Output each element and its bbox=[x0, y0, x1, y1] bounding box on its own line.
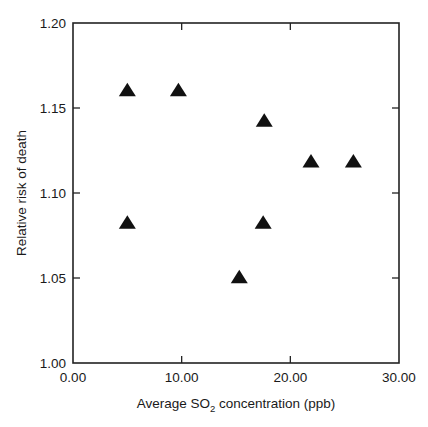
top-edge-artifact bbox=[0, 0, 428, 12]
y-tick-label: 1.05 bbox=[40, 271, 66, 286]
relative-risk-vs-so2-scatter: 0.0010.0020.0030.00 1.001.051.101.151.20… bbox=[0, 0, 428, 427]
x-tick-label: 30.00 bbox=[382, 370, 416, 385]
y-axis-tick-labels: 1.001.051.101.151.20 bbox=[40, 16, 66, 371]
data-point-marker bbox=[231, 270, 248, 284]
x-tick-label: 20.00 bbox=[273, 370, 307, 385]
plot-frame bbox=[73, 23, 399, 363]
scatter-plot-figure: 0.0010.0020.0030.00 1.001.051.101.151.20… bbox=[0, 0, 428, 427]
x-axis-ticks bbox=[182, 23, 291, 363]
data-point-marker bbox=[119, 215, 136, 229]
data-point-marker bbox=[170, 83, 187, 97]
data-point-marker bbox=[345, 154, 362, 168]
y-axis-ticks bbox=[73, 108, 399, 278]
y-tick-label: 1.15 bbox=[40, 101, 66, 116]
data-point-marker bbox=[119, 83, 136, 97]
data-point-marker bbox=[255, 215, 272, 229]
data-point-marker bbox=[256, 113, 273, 127]
data-point-markers bbox=[119, 83, 362, 284]
data-point-marker bbox=[302, 154, 319, 168]
x-axis-title: Average SO2 concentration (ppb) bbox=[137, 396, 336, 414]
y-tick-label: 1.00 bbox=[40, 356, 66, 371]
x-tick-label: 10.00 bbox=[165, 370, 199, 385]
y-tick-label: 1.10 bbox=[40, 186, 66, 201]
x-axis-tick-labels: 0.0010.0020.0030.00 bbox=[60, 370, 416, 385]
y-axis-title: Relative risk of death bbox=[14, 130, 29, 256]
y-tick-label: 1.20 bbox=[40, 16, 66, 31]
x-tick-label: 0.00 bbox=[60, 370, 86, 385]
